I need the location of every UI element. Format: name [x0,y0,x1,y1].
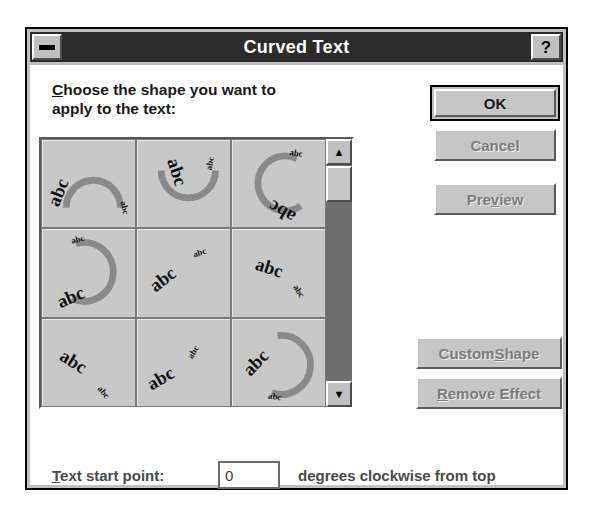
start-point-accelerator: T [52,467,60,484]
shape-cell-slant-up[interactable]: abc abc [137,229,230,316]
start-point-input[interactable] [218,461,280,489]
start-point-label-text: ext start point: [60,467,164,484]
dialog-client-area: Choose the shape you want to apply to th… [30,65,563,485]
shape-sample-text: abc [238,345,272,380]
prompt-label: Choose the shape you want to apply to th… [52,80,352,118]
custom-shape-label-post: hape [504,345,539,362]
shape-sample-text-small: abc [185,343,200,360]
minimize-icon [39,45,55,50]
preview-label-pre: Pre [467,191,491,208]
preview-accelerator: v [491,191,499,208]
shape-sample-text: abc [54,283,87,313]
shape-sample-text-small: abc [96,383,112,400]
prompt-accelerator: C [52,81,63,98]
full-circle-shape-icon: abc abc [233,320,325,406]
shape-sample-text: abc [265,196,299,227]
remove-effect-accelerator: R [437,385,448,402]
minimize-button[interactable] [32,34,62,60]
arch-down-shape-icon: abc abc [138,141,230,227]
custom-shape-accelerator: S [494,345,504,362]
circle-open-right-shape-icon: abc abc [233,141,325,227]
shape-cell-curve-down-right[interactable]: abc abc [42,319,135,406]
shape-sample-text: abc [56,344,90,377]
shape-cell-arch-down[interactable]: abc abc [137,140,230,227]
window-title: Curved Text [64,32,529,62]
arc-stroke [272,335,311,394]
start-point-label: Text start point: [52,467,164,484]
shape-sample-text: abc [143,362,177,394]
shape-sample-text-small: abc [291,283,306,300]
curved-text-dialog: Curved Text ? Choose the shape you want … [25,27,568,490]
screenshot-root: Curved Text ? Choose the shape you want … [0,0,597,512]
shape-grid-scrollbar[interactable]: ▲ ▼ [326,139,352,407]
shape-sample-text-small: abc [268,390,282,402]
slant-down-shape-icon: abc abc [233,230,325,316]
shape-cell-circle-open-right[interactable]: abc abc [232,140,325,227]
shape-cell-curve-up-right[interactable]: abc abc [137,319,230,406]
remove-effect-label-post: emove Effect [448,385,541,402]
scroll-down-button[interactable]: ▼ [326,381,352,407]
shape-sample-text: abc [146,263,180,296]
scroll-up-button[interactable]: ▲ [326,139,352,165]
shape-sample-text-small: abc [192,246,208,260]
ok-button[interactable]: OK [434,89,556,117]
arc-stroke [66,180,120,207]
titlebar[interactable]: Curved Text ? [30,32,563,62]
ok-button-default-frame: OK [430,85,560,121]
slant-up-shape-icon: abc abc [138,230,230,316]
custom-shape-label-pre: Custom [439,345,495,362]
question-mark-icon: ? [541,39,551,56]
shape-grid-frame: abc abc abc abc [39,137,354,409]
custom-shape-button[interactable]: Custom Shape [416,337,562,369]
scrollbar-thumb[interactable] [326,166,352,202]
shape-cell-arch-up[interactable]: abc abc [42,140,135,227]
remove-effect-button[interactable]: Remove Effect [416,377,562,409]
arrow-up-icon: ▲ [334,147,345,158]
curve-down-right-shape-icon: abc abc [43,320,135,406]
cancel-button[interactable]: Cancel [434,129,556,161]
shape-cell-slant-down[interactable]: abc abc [232,229,325,316]
shape-grid[interactable]: abc abc abc abc [41,139,326,407]
shape-sample-text-small: abc [204,156,216,171]
start-point-suffix: degrees clockwise from top [298,467,496,484]
help-button[interactable]: ? [531,34,561,60]
curve-up-right-shape-icon: abc abc [138,320,230,406]
circle-open-left-shape-icon: abc abc [43,230,135,316]
preview-button[interactable]: Preview [434,183,556,215]
preview-label-post: iew [499,191,523,208]
arrow-down-icon: ▼ [334,389,345,400]
arch-up-shape-icon: abc abc [43,141,135,227]
shape-cell-circle-open-left[interactable]: abc abc [42,229,135,316]
prompt-line2: apply to the text: [52,100,176,117]
shape-cell-full-circle[interactable]: abc abc [232,319,325,406]
shape-sample-text-small: abc [119,200,131,215]
shape-sample-text: abc [253,254,285,282]
prompt-line1: hoose the shape you want to [63,81,276,98]
